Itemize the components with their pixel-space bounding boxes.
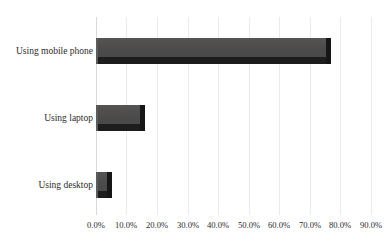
- bar-using-laptop[interactable]: [96, 105, 145, 131]
- x-axis-labels: 0.0% 10.0% 20.0% 30.0% 40.0% 50.0% 60.0%…: [0, 219, 392, 235]
- bar-face-right: [107, 172, 112, 198]
- category-label-using-laptop: Using laptop: [0, 112, 93, 124]
- bar-chart: Using mobile phone Using laptop Using de…: [0, 0, 392, 244]
- bar-face-top: [96, 105, 145, 118]
- bar-face-right: [140, 105, 145, 131]
- bar-using-desktop[interactable]: [96, 172, 112, 198]
- gridline-90: [371, 17, 372, 215]
- bar-face-left: [96, 172, 98, 198]
- bar-face-bottom: [96, 57, 331, 64]
- gridline-80: [340, 17, 341, 215]
- category-label-using-mobile-phone: Using mobile phone: [0, 45, 93, 57]
- category-label-using-desktop: Using desktop: [0, 179, 93, 191]
- plot-area: [96, 17, 371, 215]
- bar-face-top: [96, 38, 331, 51]
- bar-face-bottom: [96, 124, 145, 131]
- bar-face-left: [96, 38, 98, 64]
- bar-face-right: [326, 38, 331, 64]
- bar-face-left: [96, 105, 98, 131]
- bar-using-mobile-phone[interactable]: [96, 38, 331, 64]
- x-tick-label-90: 90.0%: [351, 219, 391, 231]
